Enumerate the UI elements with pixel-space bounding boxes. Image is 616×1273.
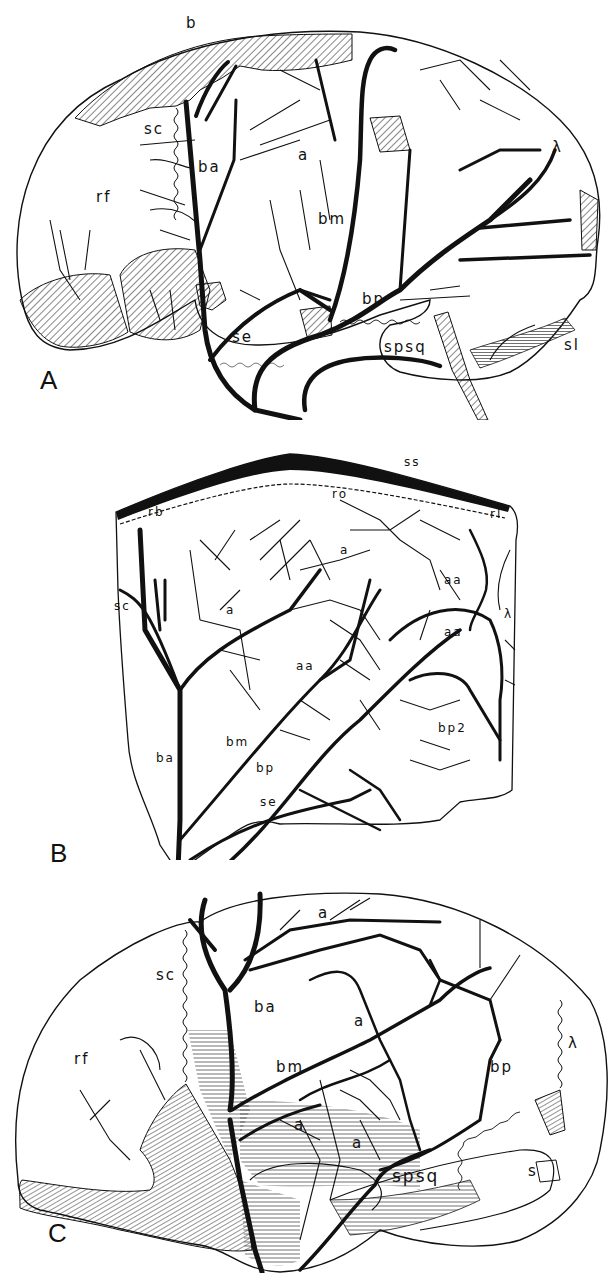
label-spsq: spsq (384, 340, 427, 355)
label-ba: ba (198, 160, 221, 175)
panel-a: b sc ba a λ rf bm bp se spsq sl A (0, 0, 616, 420)
label-bp: bp (362, 292, 385, 307)
label-ss: ss (404, 456, 421, 468)
label-sc: sc (156, 968, 176, 983)
label-sc: sc (114, 600, 131, 612)
label-rb: rb (148, 506, 165, 518)
label-bm: bm (226, 736, 249, 748)
label-bp: bp (490, 1060, 513, 1075)
label-b: b (186, 16, 198, 31)
label-ro: ro (332, 488, 348, 500)
label-aa-mid: aa (444, 626, 463, 638)
panel-label-c: C (48, 1218, 67, 1249)
label-rf: rf (96, 190, 111, 205)
label-a-upper-mid: a (354, 1014, 365, 1029)
label-bp2: bp2 (438, 722, 467, 734)
panel-c: a sc ba a λ rf bm bp a a spsq s C (0, 860, 616, 1273)
label-a-lower-right: a (352, 1136, 363, 1151)
label-se: se (232, 330, 253, 345)
label-a-lower-left: a (294, 1118, 305, 1133)
panel-a-drawing (0, 0, 616, 420)
panel-b: ss ro rb rl a sc a aa λ aa aa bp2 bm ba … (0, 440, 616, 860)
label-lambda: λ (568, 1036, 579, 1051)
label-sc: sc (144, 122, 164, 137)
label-a-upper: a (340, 544, 349, 556)
label-aa-left: aa (296, 660, 315, 672)
label-a-top: a (318, 906, 329, 921)
panel-b-drawing (0, 440, 616, 860)
label-bm: bm (318, 212, 346, 227)
label-ba: ba (156, 752, 175, 764)
label-se: se (260, 796, 278, 808)
panel-c-drawing (0, 860, 616, 1273)
label-sl: sl (564, 338, 580, 353)
label-s: s (528, 1164, 538, 1179)
panel-label-a: A (40, 365, 57, 396)
label-bm: bm (276, 1060, 304, 1075)
label-spsq: spsq (392, 1168, 439, 1185)
label-a-lower: a (226, 604, 235, 616)
label-bp: bp (256, 762, 275, 774)
label-rl: rl (490, 508, 502, 520)
label-ba: ba (254, 1000, 277, 1015)
label-aa-top: aa (444, 574, 463, 586)
label-rf: rf (74, 1052, 89, 1067)
label-a: a (298, 148, 309, 163)
label-lambda: λ (504, 608, 513, 620)
label-lambda: λ (552, 140, 563, 155)
